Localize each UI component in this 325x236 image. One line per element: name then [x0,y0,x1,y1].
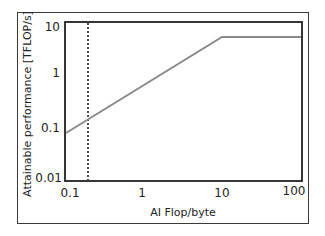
x-tick-label: 1 [138,186,146,200]
roofline-chart: 10 1 0.1 0.01 0.1 1 10 100 AI Flop/byte … [0,0,325,236]
plot-area [65,22,302,181]
x-axis-label: AI Flop/byte [150,206,216,219]
x-tick-label: 10 [214,186,229,200]
y-tick-label: 0.01 [35,171,62,185]
y-tick-label: 1 [52,66,60,80]
x-tick-label: 0.1 [60,186,79,200]
y-tick-label: 0.1 [41,121,60,135]
roofline-series [66,37,301,133]
y-axis-label: Attainable performance [TFLOP/s] [21,11,34,197]
x-tick-label: 100 [283,184,306,198]
y-tick-label: 10 [45,20,60,34]
